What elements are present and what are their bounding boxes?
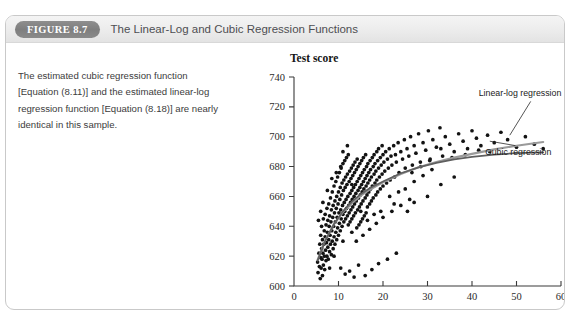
data-point [374, 221, 378, 225]
data-point [377, 147, 381, 151]
data-point [411, 163, 415, 167]
data-point [461, 139, 465, 143]
data-point [438, 126, 442, 130]
data-point [441, 154, 445, 158]
data-point [368, 227, 372, 231]
data-point [448, 142, 452, 146]
scatter-chart: Test score 600620640660680700720740 0102… [234, 49, 564, 307]
data-point [330, 190, 334, 194]
data-point [386, 157, 390, 161]
data-point [339, 266, 343, 270]
data-point [379, 210, 383, 214]
data-point [421, 174, 425, 178]
x-axis-ticks-group: 0102030405060 [291, 281, 564, 302]
data-point [439, 183, 443, 187]
data-point [371, 196, 375, 200]
data-point [405, 147, 409, 151]
figure-number-badge: FIGURE 8.7 [15, 21, 100, 38]
data-point [332, 254, 336, 258]
data-point [390, 210, 394, 214]
data-point [320, 224, 324, 228]
data-point [428, 159, 432, 163]
data-point [326, 189, 330, 193]
data-point [506, 138, 510, 142]
data-point [427, 129, 431, 133]
data-point [370, 268, 374, 272]
data-point [417, 132, 421, 136]
data-point [412, 144, 416, 148]
data-point [457, 132, 461, 136]
data-point [424, 148, 428, 152]
data-point [378, 175, 382, 179]
chart-svg: Test score 600620640660680700720740 0102… [234, 49, 564, 307]
data-point [346, 172, 350, 176]
data-point [332, 235, 336, 239]
data-point [380, 172, 384, 176]
data-point [430, 168, 434, 172]
data-point [327, 224, 331, 228]
data-point [325, 207, 329, 211]
data-point [339, 165, 343, 169]
data-point [372, 153, 376, 157]
y-tick-label: 740 [269, 72, 285, 83]
data-point [357, 263, 361, 267]
x-tick-label: 60 [556, 291, 564, 302]
data-point [334, 230, 338, 234]
data-point [319, 266, 323, 270]
data-point [334, 171, 338, 175]
data-point [330, 239, 334, 243]
data-point [338, 229, 342, 233]
data-point [396, 141, 400, 145]
data-point [362, 156, 366, 160]
y-axis-title-group: Test score [290, 52, 338, 64]
data-point [406, 210, 410, 214]
data-point [378, 187, 382, 191]
data-point [333, 242, 337, 246]
data-point [403, 166, 407, 170]
y-tick-label: 600 [269, 281, 285, 292]
data-point [452, 175, 456, 179]
data-point [381, 215, 385, 219]
data-point [331, 204, 335, 208]
data-point [326, 245, 330, 249]
data-point [412, 201, 416, 205]
y-tick-label: 660 [269, 191, 285, 202]
data-point [330, 208, 334, 212]
data-point [401, 157, 405, 161]
data-point [319, 233, 323, 237]
data-point [376, 190, 380, 194]
data-point [426, 195, 430, 199]
data-point [355, 157, 359, 161]
y-axis-ticks-group: 600620640660680700720740 [269, 72, 294, 292]
data-point [336, 226, 340, 230]
data-point [336, 175, 340, 179]
data-point [340, 193, 344, 197]
data-point [395, 160, 399, 164]
data-point [328, 266, 332, 270]
data-point [366, 218, 370, 222]
data-point [431, 138, 435, 142]
data-point [374, 169, 378, 173]
x-tick-label: 30 [422, 291, 433, 302]
data-point [364, 211, 368, 215]
data-point [399, 204, 403, 208]
data-point [354, 192, 358, 196]
data-point [377, 166, 381, 170]
data-point [343, 272, 347, 276]
data-point [324, 248, 328, 252]
data-point [327, 202, 331, 206]
data-point [421, 141, 425, 145]
data-point [383, 169, 387, 173]
data-point [378, 156, 382, 160]
data-point [384, 150, 388, 154]
data-point [390, 163, 394, 167]
data-point [318, 277, 322, 281]
data-point [368, 159, 372, 163]
data-point [318, 242, 322, 246]
data-point [330, 177, 334, 181]
data-point [321, 274, 325, 278]
data-point [336, 202, 340, 206]
data-point [387, 147, 391, 151]
data-point [366, 205, 370, 209]
data-point [412, 180, 416, 184]
